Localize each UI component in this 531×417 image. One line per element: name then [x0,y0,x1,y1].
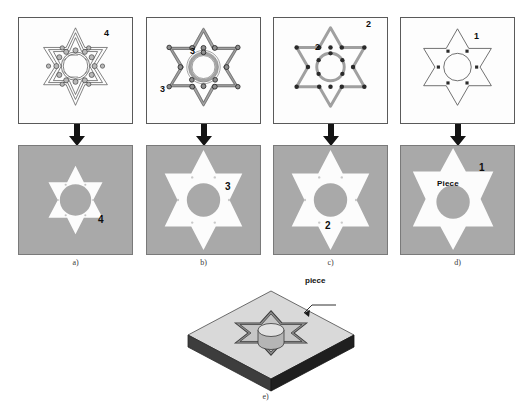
panel-a-toolpath [18,17,133,124]
caption-a: a) [18,258,133,267]
step-label-top-a: 4 [104,29,109,38]
arrow-down-c [320,124,342,146]
panel-b-result [146,145,261,255]
step-label-top-c-inner: 2 [315,43,320,52]
panel-b-toolpath [146,17,261,124]
iso-leader-label: piece [305,276,325,285]
toolpath-drawing-d [401,18,514,123]
caption-b: b) [146,258,261,267]
toolpath-drawing-a [19,18,132,123]
panel-d-result [400,145,515,255]
step-label-top-b-inner: 3 [190,47,195,56]
toolpath-drawing-b [147,18,260,123]
arrow-down-a [66,124,88,146]
result-drawing-b [147,146,260,254]
arrow-down-icon [447,124,469,146]
panel-a-result [18,145,133,255]
caption-c: c) [273,258,388,267]
isometric-block [176,283,366,393]
caption-d: d) [400,258,515,267]
step-label-top-d: 1 [474,32,479,41]
arrow-down-icon [320,124,342,146]
figure-root: 4 [0,0,531,417]
result-drawing-d [401,146,514,254]
result-drawing-a [19,146,132,254]
arrow-down-d [447,124,469,146]
step-label-result-c: 2 [325,221,331,231]
isometric-drawing [176,283,366,393]
arrow-down-icon [66,124,88,146]
arrow-down-icon [193,124,215,146]
step-label-result-b: 3 [225,182,231,192]
panel-d-geometry [400,17,515,124]
step-label-result-d: 1 [479,163,485,173]
step-label-top-c-corner: 2 [366,20,371,29]
panel-c-toolpath [273,17,388,124]
step-label-top-b-outer: 3 [160,85,165,94]
result-drawing-c [274,146,387,254]
toolpath-drawing-c [274,18,387,123]
piece-label: Piece [437,180,459,188]
step-label-result-a: 4 [98,215,104,225]
arrow-down-b [193,124,215,146]
caption-e: e) [0,392,531,401]
panel-c-result [273,145,388,255]
